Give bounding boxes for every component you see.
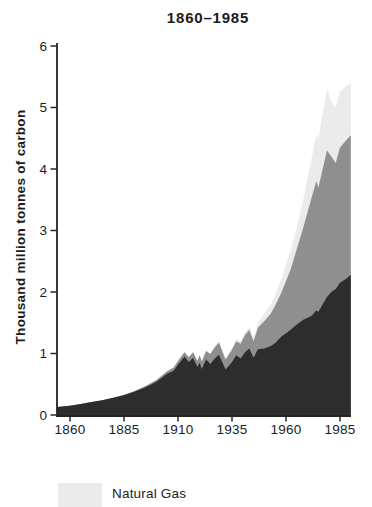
- y-tick-label: 1: [39, 346, 47, 361]
- x-tick-label: 1910: [162, 422, 193, 437]
- y-tick-label: 2: [39, 285, 47, 300]
- x-tick-label: 1960: [270, 422, 301, 437]
- y-tick-label: 4: [39, 162, 47, 177]
- legend-label-natural-gas: Natural Gas: [112, 486, 186, 501]
- legend-swatch-natural-gas: [58, 483, 102, 507]
- y-tick-label: 5: [39, 100, 47, 115]
- x-tick-label: 1885: [108, 422, 139, 437]
- y-tick-label: 3: [39, 223, 47, 238]
- y-tick-label: 6: [39, 39, 47, 54]
- y-tick-label: 0: [39, 408, 47, 423]
- x-tick-label: 1935: [216, 422, 247, 437]
- x-tick-label: 1860: [54, 422, 85, 437]
- x-tick-label: 1985: [324, 422, 355, 437]
